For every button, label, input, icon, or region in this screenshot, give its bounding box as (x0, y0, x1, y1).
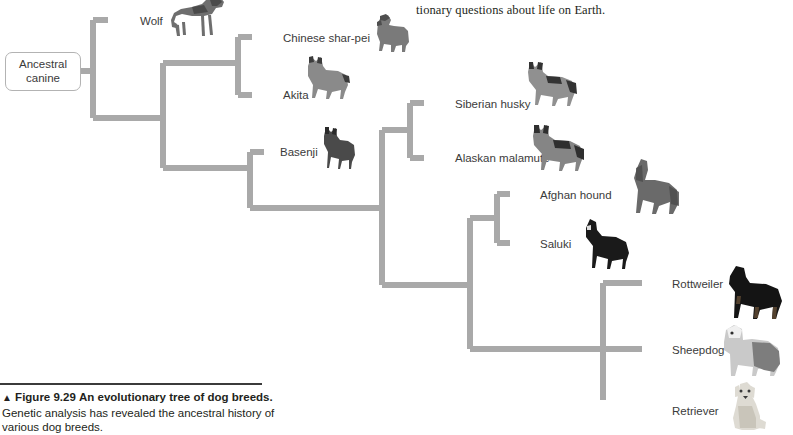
dog-photo-saluki (578, 216, 636, 272)
caption-title: An evolutionary tree of dog breeds. (79, 391, 273, 403)
dog-photo-akita (296, 52, 356, 104)
dog-photo-chinese-shar-pei (372, 12, 414, 58)
caption-triangle-icon: ▲ (2, 392, 12, 403)
taxon-label-retriever: Retriever (672, 405, 719, 418)
dog-photo-basenji (314, 124, 360, 172)
taxon-label-basenji: Basenji (280, 146, 318, 159)
taxon-label-saluki: Saluki (540, 238, 571, 251)
figure-container: tionary questions about life on Earth. (0, 0, 793, 435)
taxon-label-afghan-hound: Afghan hound (540, 189, 612, 202)
dog-photo-wolf (168, 0, 230, 40)
dog-photo-alaskan-malamute (524, 118, 590, 174)
dog-photo-rottweiler (716, 262, 788, 322)
taxon-label-sheepdog: Sheepdog (672, 344, 724, 357)
taxon-label-wolf: Wolf (140, 15, 163, 28)
caption-divider (0, 383, 262, 385)
taxon-label-chinese-shar-pei: Chinese shar-pei (283, 32, 370, 45)
dog-photo-siberian-husky (520, 56, 582, 110)
ancestral-canine-node: Ancestral canine (5, 52, 81, 91)
figure-caption: ▲ Figure 9.29 An evolutionary tree of do… (2, 390, 302, 435)
dog-photo-retriever (718, 378, 772, 434)
caption-number: Figure 9.29 (15, 391, 76, 403)
caption-body: Genetic analysis has revealed the ancest… (2, 407, 274, 434)
dog-photo-afghan-hound (623, 156, 685, 218)
dog-photo-sheepdog (718, 320, 784, 378)
